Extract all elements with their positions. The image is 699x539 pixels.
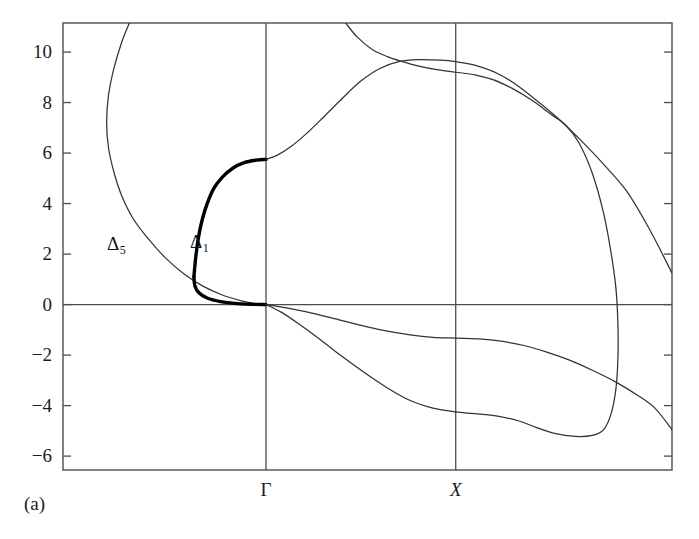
y-tick-label: 4 bbox=[0, 194, 52, 213]
dispersion-curve bbox=[266, 60, 672, 273]
delta5-label: Δ5 bbox=[107, 234, 125, 253]
dispersion-curve bbox=[266, 305, 672, 430]
branch-subscript: 5 bbox=[120, 243, 126, 257]
symmetry-point-lines bbox=[266, 23, 456, 470]
y-tick-label: 0 bbox=[0, 295, 52, 314]
y-tick-label: −6 bbox=[0, 446, 52, 465]
branch-symbol: Δ bbox=[190, 231, 202, 252]
dispersion-curve bbox=[194, 159, 266, 276]
x-tick-label: X bbox=[442, 480, 470, 499]
branch-subscript: 1 bbox=[203, 241, 209, 255]
panel-caption: (a) bbox=[24, 494, 45, 513]
y-tick-label: −2 bbox=[0, 345, 52, 364]
dispersion-curve bbox=[194, 277, 266, 305]
branch-symbol: Δ bbox=[107, 233, 119, 254]
axis-ticks bbox=[63, 52, 672, 456]
y-tick-label: 10 bbox=[0, 42, 52, 61]
dispersion-curves bbox=[107, 23, 672, 437]
figure-container: 1086420−2−4−6 ΓX Δ5Δ1 (a) bbox=[0, 0, 699, 539]
delta1-label: Δ1 bbox=[190, 232, 208, 251]
y-tick-label: 6 bbox=[0, 143, 52, 162]
y-tick-label: −4 bbox=[0, 396, 52, 415]
y-tick-label: 8 bbox=[0, 93, 52, 112]
band-structure-plot bbox=[0, 0, 699, 539]
x-tick-label: Γ bbox=[252, 480, 280, 499]
dispersion-curve bbox=[266, 23, 618, 437]
y-tick-label: 2 bbox=[0, 244, 52, 263]
